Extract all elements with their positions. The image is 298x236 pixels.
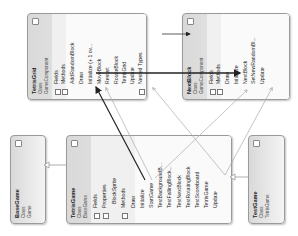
relationship-lines [0, 0, 298, 236]
inheritance-arrow-icon [230, 174, 235, 180]
inheritance-arrow-icon [44, 162, 49, 168]
